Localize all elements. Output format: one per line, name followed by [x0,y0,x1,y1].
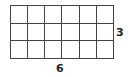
grid-cell [28,24,45,42]
grid-cell [11,24,28,42]
grid-cell [45,6,62,24]
grid-cell [62,24,79,42]
grid-cell [97,6,114,24]
grid-cell [45,41,62,59]
grid-cell [45,24,62,42]
grid-cell [80,41,97,59]
height-label: 3 [116,27,124,38]
grid-cell [62,6,79,24]
grid-cell [97,41,114,59]
grid-cell [28,6,45,24]
width-label: 6 [56,63,64,74]
grid-cell [11,6,28,24]
rectangle-grid [10,5,114,59]
grid-cell [28,41,45,59]
grid-cell [80,6,97,24]
grid-cell [11,41,28,59]
grid-cell [97,24,114,42]
grid-cell [80,24,97,42]
grid-cell [62,41,79,59]
